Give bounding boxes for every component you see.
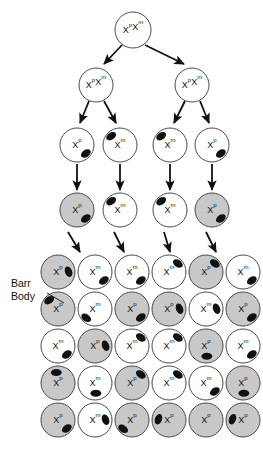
cell-inactive-xm: Xp	[195, 128, 229, 162]
barr-body-label-line1: Barr	[11, 277, 31, 289]
barr-body	[201, 353, 212, 360]
cell-inactive-xm: Xm	[153, 193, 187, 227]
cell-inactive-xm: XpXm	[79, 68, 113, 102]
cell-inactive-xm: Xm	[226, 255, 260, 289]
cell-inactive-xm: Xm	[115, 329, 149, 363]
cell-inactive-xm: Xm	[103, 128, 137, 162]
barr-body	[238, 390, 249, 397]
lineage-arrow	[104, 45, 122, 64]
cell-inactive-xm: Xp	[60, 128, 94, 162]
cell-inactive-xm: Xm	[41, 329, 75, 363]
cell-inactive-xm: Xm	[103, 193, 137, 227]
cell-inactive-xm: Xm	[78, 292, 112, 326]
lineage-arrow	[206, 232, 216, 252]
barr-body	[90, 390, 101, 397]
lineage-arrow	[200, 101, 209, 123]
cell-inactive-xp: Xp	[41, 255, 75, 289]
cell-inactive-xm: Xm	[189, 366, 223, 400]
cell-inactive-xp: Xp	[41, 292, 75, 326]
diagram-canvas: XpXmXpXmXpXmXpXmXmXpXpXmXmXpXpXmXmXmXpXm…	[0, 0, 263, 452]
cell-inactive-xp: Xp	[226, 366, 260, 400]
x-inactivation-diagram: XpXmXpXmXpXmXpXmXmXpXpXmXmXpXpXmXmXmXpXm…	[0, 0, 263, 452]
cell-layer: XpXmXpXmXpXmXpXmXmXpXpXmXmXpXpXmXmXmXpXm…	[41, 12, 260, 437]
cell-inactive-xm: Xm	[115, 255, 149, 289]
cell-inactive-xp: Xp	[78, 329, 112, 363]
cell-inactive-xp: Xp	[195, 193, 229, 227]
cell-inactive-xm: Xm	[152, 255, 186, 289]
cell-inactive-xm: Xm	[78, 255, 112, 289]
cell-inactive-xp: Xp	[115, 366, 149, 400]
cell-inactive-xp: Xp	[115, 292, 149, 326]
cell-inactive-xp: Xp	[41, 403, 75, 437]
lineage-arrow	[80, 101, 89, 123]
cell-inactive-xm: Xm	[78, 366, 112, 400]
cell-inactive-xp: Xp	[189, 329, 223, 363]
cell-inactive-xm: Xm	[226, 329, 260, 363]
cell-inactive-xm: XpXm	[115, 12, 151, 48]
lineage-arrow	[114, 232, 124, 252]
lineage-arrow	[174, 101, 185, 123]
cell-inactive-xm: Xm	[152, 329, 186, 363]
cell-inactive-xm: Xm	[153, 128, 187, 162]
lineage-arrow	[68, 232, 80, 252]
cell-inactive-xp: Xp	[189, 403, 223, 437]
cell-inactive-xp: Xp	[152, 403, 186, 437]
lineage-arrow	[104, 101, 116, 123]
cell-inactive-xp: Xp	[115, 403, 149, 437]
lineage-arrow	[145, 45, 184, 64]
cell-inactive-xp: Xp	[226, 403, 260, 437]
cell-inactive-xm: Xm	[152, 366, 186, 400]
lineage-arrow	[164, 232, 170, 252]
cell-inactive-xm: XpXm	[175, 68, 209, 102]
cell-inactive-xp: Xp	[41, 366, 75, 400]
cell-inactive-xp: Xp	[226, 292, 260, 326]
cell-inactive-xp: Xp	[189, 255, 223, 289]
cell-inactive-xp: Xp	[60, 193, 94, 227]
cell-inactive-xp: Xp	[152, 292, 186, 326]
cell-inactive-xm: Xm	[78, 403, 112, 437]
barr-body-label-line2: Body	[11, 290, 36, 302]
cell-inactive-xm: Xm	[189, 292, 223, 326]
